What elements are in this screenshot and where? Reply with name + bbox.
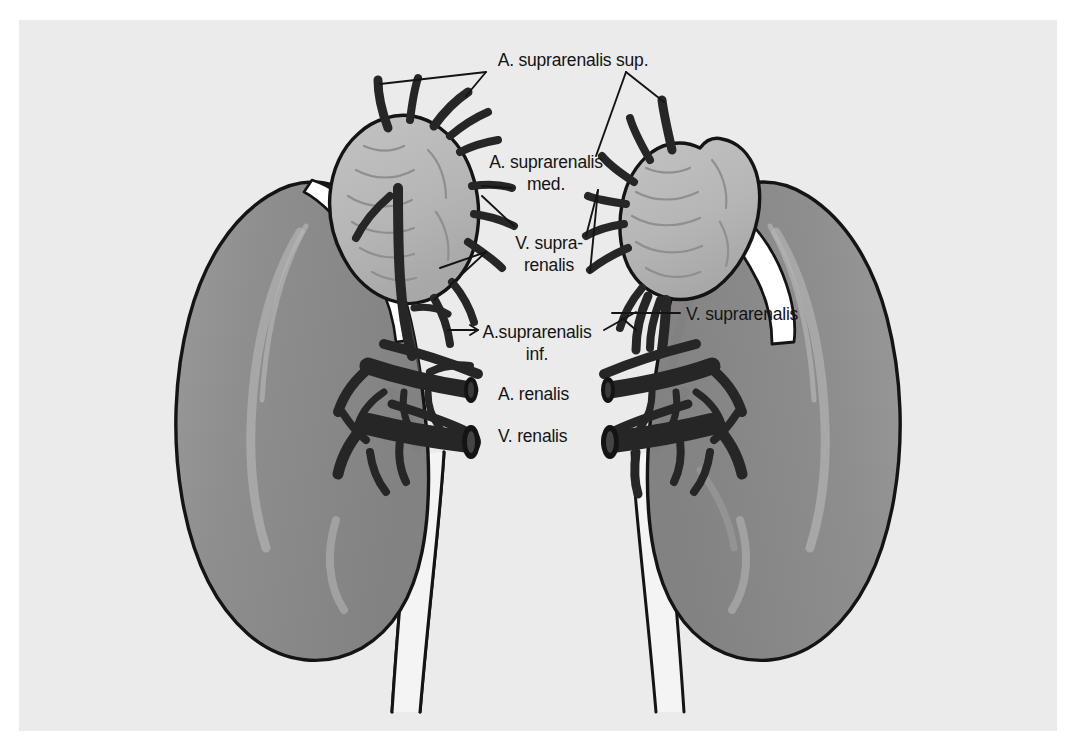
label-a-suprarenalis-inf-line2: inf.: [526, 344, 549, 364]
v-suprarenalis-right: [662, 300, 666, 350]
anatomy-figure: A. suprarenalis sup. A. suprarenalis med…: [0, 0, 1079, 752]
label-v-suprarenalis-right: V. suprarenalis: [686, 304, 799, 324]
label-v-suprarenalis-left-line1: V. supra-: [515, 233, 583, 253]
label-a-suprarenalis-med-line1: A. suprarenalis: [489, 152, 603, 172]
label-a-suprarenalis-inf-line1: A.suprarenalis: [482, 322, 592, 342]
anatomy-illustration-canvas: A. suprarenalis sup. A. suprarenalis med…: [0, 0, 1079, 752]
label-v-renalis: V. renalis: [498, 426, 568, 446]
label-a-suprarenalis-sup: A. suprarenalis sup.: [498, 50, 649, 70]
label-v-suprarenalis-left-line2: renalis: [524, 255, 575, 275]
label-a-suprarenalis-med-line2: med.: [527, 174, 565, 194]
label-a-renalis: A. renalis: [498, 384, 569, 404]
illustration-panel-background: [19, 20, 1057, 731]
